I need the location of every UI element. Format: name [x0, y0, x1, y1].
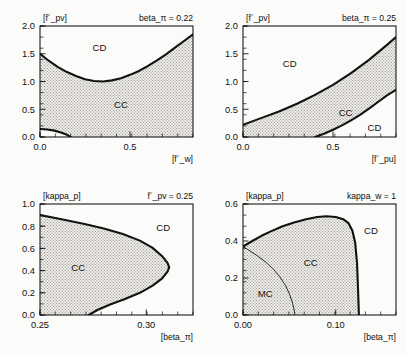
region-label-mc: MC [258, 288, 273, 299]
x-tick-label: 0.5 [327, 142, 340, 152]
y-tick-label: 1.5 [225, 49, 238, 59]
region-label-cd: CD [283, 58, 297, 69]
phase-diagram-figure: 0.00.50.00.51.01.52.0[f´_pv][f´_w]beta_π… [0, 0, 406, 355]
phase-plot-top-right: 0.00.50.00.51.01.52.0[f´_pv][f´_pu]beta_… [203, 0, 406, 177]
y-tick-label: 0.4 [22, 266, 35, 276]
y-tick-label: 0.0 [22, 310, 35, 320]
y-tick-label: 0.0 [22, 132, 35, 142]
x-axis-label: [f´_w] [172, 154, 193, 164]
x-tick-label: 0.30 [137, 320, 155, 330]
y-axis-label: [kappa_p] [246, 191, 284, 201]
region-label-cc: CC [71, 262, 85, 273]
y-tick-label: 0.6 [225, 199, 238, 209]
region-label-cc: CC [339, 107, 353, 118]
region-label-cd: CD [156, 222, 170, 233]
y-axis-label: [f´_pv] [43, 13, 67, 23]
y-tick-label: 0.5 [22, 105, 35, 115]
panel-parameter-title: kappa_w = 1 [347, 191, 396, 201]
x-tick-label: 0.0 [237, 142, 250, 152]
y-tick-label: 1.0 [225, 77, 238, 87]
region-label-cc: CC [304, 257, 318, 268]
x-tick-label: 0.10 [327, 320, 345, 330]
y-axis-label: [f´_pv] [246, 13, 270, 23]
y-tick-label: 0.0 [225, 310, 238, 320]
y-tick-label: 1.0 [22, 199, 35, 209]
phase-diagram-panel-top-left: 0.00.50.00.51.01.52.0[f´_pv][f´_w]beta_π… [0, 0, 203, 177]
region-label-cc: CC [114, 99, 128, 110]
x-axis-label: [beta_π] [364, 332, 396, 342]
phase-plot-top-left: 0.00.50.00.51.01.52.0[f´_pv][f´_w]beta_π… [0, 0, 203, 177]
x-tick-label: 0.00 [234, 320, 252, 330]
y-tick-label: 0.8 [22, 222, 35, 232]
x-axis-label: [f´_pu] [372, 154, 396, 164]
panel-parameter-title: f´_pv = 0.25 [147, 191, 193, 201]
y-tick-label: 0.0 [225, 132, 238, 142]
phase-plot-bottom-right: 0.000.100.00.20.40.6[kappa_p][beta_π]kap… [203, 178, 406, 355]
phase-diagram-panel-top-right: 0.00.50.00.51.01.52.0[f´_pv][f´_pu]beta_… [203, 0, 406, 177]
y-tick-label: 0.2 [22, 288, 35, 298]
phase-diagram-panel-bottom-right: 0.000.100.00.20.40.6[kappa_p][beta_π]kap… [203, 178, 406, 355]
y-tick-label: 0.2 [225, 273, 238, 283]
y-tick-label: 2.0 [225, 21, 238, 31]
region-label-cd: CD [367, 122, 381, 133]
x-tick-label: 0.0 [34, 142, 47, 152]
y-tick-label: 0.6 [22, 244, 35, 254]
y-tick-label: 1.0 [22, 77, 35, 87]
y-tick-label: 2.0 [22, 21, 35, 31]
x-axis-label: [beta_π] [161, 332, 193, 342]
y-tick-label: 0.5 [225, 105, 238, 115]
x-tick-label: 0.25 [31, 320, 49, 330]
region-label-cd: CD [364, 225, 378, 236]
phase-plot-bottom-left: 0.250.300.00.20.40.60.81.0[kappa_p][beta… [0, 178, 203, 355]
panel-parameter-title: beta_π = 0.25 [342, 13, 396, 23]
region-label-cd: CD [92, 42, 106, 53]
y-tick-label: 0.4 [225, 236, 238, 246]
panel-parameter-title: beta_π = 0.22 [139, 13, 193, 23]
x-tick-label: 0.5 [124, 142, 137, 152]
phase-diagram-panel-bottom-left: 0.250.300.00.20.40.60.81.0[kappa_p][beta… [0, 178, 203, 355]
y-tick-label: 1.5 [22, 49, 35, 59]
y-axis-label: [kappa_p] [43, 191, 81, 201]
